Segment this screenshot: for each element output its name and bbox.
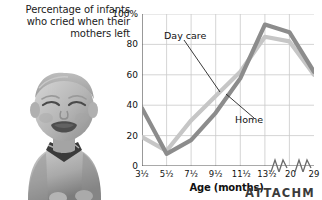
x-tick-label-3: 9½ xyxy=(209,169,223,179)
x-tick-label-5: 13½ xyxy=(257,169,276,179)
series-label-day-care: Day care xyxy=(164,30,206,41)
y-tick-label-40: 40 xyxy=(78,100,138,110)
x-tick-label-2: 7½ xyxy=(184,169,198,179)
x-tick-label-0: 3½ xyxy=(135,169,149,179)
series-label-home: Home xyxy=(235,114,263,125)
y-tick-label-80: 80 xyxy=(78,39,138,49)
y-tick-label-100: 100% xyxy=(78,9,138,19)
figure-screenshot: Percentage of infants who cried when the… xyxy=(0,0,322,200)
x-tick-label-1: 5½ xyxy=(160,169,174,179)
series-line-home xyxy=(142,25,314,154)
x-tick-label-7: 29 xyxy=(309,169,320,179)
watermark-text: ATTACHM xyxy=(245,186,322,200)
line-chart: 0 20 40 60 80 100% xyxy=(131,6,322,200)
y-tick-label-20: 20 xyxy=(78,131,138,141)
x-tick-label-4: 11½ xyxy=(232,169,251,179)
x-tick-label-6: 20 xyxy=(285,169,296,179)
y-tick-label-60: 60 xyxy=(78,70,138,80)
day-care-leader-line xyxy=(184,40,220,92)
y-tick-label-0: 0 xyxy=(78,161,138,171)
